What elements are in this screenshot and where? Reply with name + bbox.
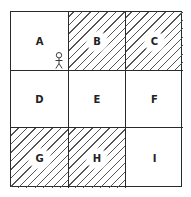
cell-label: I <box>148 150 162 167</box>
cell-label: B <box>85 30 109 53</box>
cell-c: C <box>126 12 183 71</box>
cell-label: F <box>146 91 163 108</box>
cell-a: A <box>11 12 69 71</box>
cell-i: I <box>126 128 183 188</box>
cell-f: F <box>126 71 183 128</box>
cell-d: D <box>11 71 69 128</box>
cell-label: D <box>30 91 48 108</box>
cell-label: C <box>143 30 166 53</box>
cell-g: G <box>11 128 69 188</box>
cell-h: H <box>69 128 126 188</box>
cell-label: G <box>27 147 51 170</box>
grid-diagram: A B C D E F G H I <box>10 11 182 187</box>
stick-figure-icon <box>54 52 64 69</box>
cell-e: E <box>69 71 126 128</box>
cell-label: H <box>85 147 109 170</box>
cell-b: B <box>69 12 126 71</box>
cell-label: A <box>31 33 49 50</box>
cell-label: E <box>89 91 106 108</box>
